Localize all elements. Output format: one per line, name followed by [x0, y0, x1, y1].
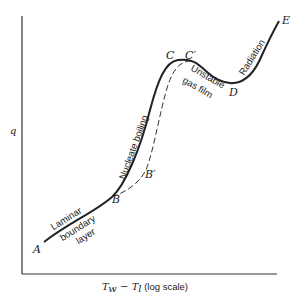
region-radiation-label: Radiation	[236, 37, 267, 77]
point-label-a: A	[32, 243, 41, 256]
y-axis-label: q	[10, 125, 16, 136]
point-label-b: B	[111, 193, 120, 206]
point-label-e: E	[281, 14, 290, 27]
region-unstable-label: Unstable gas film	[181, 62, 227, 100]
point-label-c: C	[166, 49, 175, 62]
x-axis-label: Tw − Tl (log scale)	[102, 281, 188, 294]
point-label-c-prime: C′	[185, 49, 196, 62]
x-label-minus: −	[117, 281, 132, 292]
point-label-b-prime: B′	[144, 168, 156, 181]
point-label-d: D	[228, 86, 238, 99]
x-label-note: (log scale)	[142, 281, 188, 292]
boiling-curve-diagram: q Tw − Tl (log scale) A B B′ C C′ D E La…	[0, 0, 299, 296]
